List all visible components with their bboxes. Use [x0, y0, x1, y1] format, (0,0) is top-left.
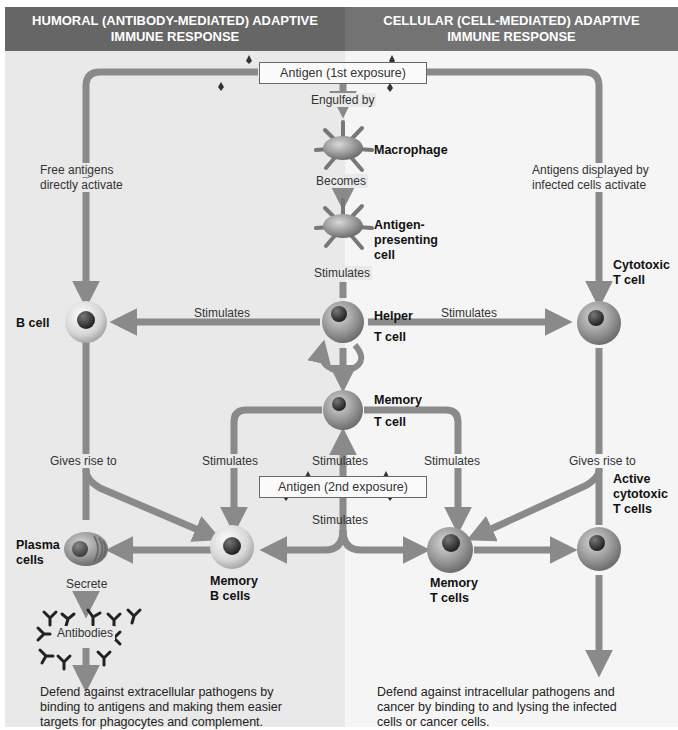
engulfed-by-label: Engulfed by — [309, 93, 376, 107]
b-cell-icon — [65, 301, 107, 343]
memory-ts-label-line2: T cells — [430, 591, 469, 606]
memory-t-cell-icon — [323, 390, 363, 430]
memory-t-label-line1: Memory — [374, 393, 422, 408]
cellular-outcome-line2: cancer by binding to and lysing the infe… — [377, 700, 617, 715]
stimulates-memory-ts-label: Stimulates — [422, 454, 482, 468]
stimulates-to-b-label: Stimulates — [194, 306, 250, 320]
apc-label-line2: presenting — [374, 233, 438, 248]
macrophage-label: Macrophage — [374, 143, 448, 158]
plasma-cell-icon — [64, 532, 108, 566]
stimulates-below-antigen2-label: Stimulates — [312, 513, 368, 527]
humoral-outcome-line1: Defend against extracellular pathogens b… — [40, 685, 282, 700]
helper-t-label-line1: Helper — [374, 309, 413, 324]
antigens-displayed-label-line2: infected cells activate — [530, 178, 648, 192]
humoral-outcome-line3: targets for phagocytes and complement. — [40, 715, 282, 730]
gives-rise-left-label: Gives rise to — [48, 454, 119, 468]
antigen-first-exposure-box: Antigen (1st exposure) — [259, 62, 427, 84]
plasma-label-line2: cells — [16, 553, 44, 568]
humoral-outcome-text: Defend against extracellular pathogens b… — [40, 685, 282, 730]
secrete-label: Secrete — [64, 577, 109, 591]
macrophage-icon — [316, 122, 372, 170]
active-cytotoxic-label-line2: cytotoxic — [613, 487, 668, 502]
humoral-outcome-line2: binding to antigens and making them easi… — [40, 700, 282, 715]
plasma-label-line1: Plasma — [16, 538, 60, 553]
apc-label-line1: Antigen- — [374, 218, 425, 233]
stimulates-memory-b-label: Stimulates — [200, 454, 260, 468]
cytotoxic-t-label-line1: Cytotoxic — [613, 258, 670, 273]
antigens-displayed-label-line1: Antigens displayed by — [530, 163, 651, 177]
memory-b-cell-icon — [210, 525, 254, 569]
active-cytotoxic-label-line3: T cells — [613, 502, 652, 517]
helper-t-label-line2: T cell — [374, 330, 406, 345]
stimulates-memory-t-up-label: Stimulates — [312, 454, 368, 468]
antigen-second-exposure-box: Antigen (2nd exposure) — [259, 476, 427, 498]
memory-t-cells-icon — [427, 527, 473, 573]
active-cytotoxic-label-line1: Active — [613, 472, 651, 487]
cellular-outcome-text: Defend against intracellular pathogens a… — [377, 685, 617, 730]
apc-label-line3: cell — [374, 248, 395, 263]
free-antigens-label-line1: Free antigens — [38, 163, 115, 177]
cellular-outcome-line3: cells or cancer cells. — [377, 715, 617, 730]
cytotoxic-t-cell-icon — [577, 301, 621, 345]
antibodies-label: Antibodies — [55, 626, 115, 640]
memory-t-label-line2: T cell — [374, 415, 406, 430]
stimulates-to-cytotoxic-label: Stimulates — [441, 306, 497, 320]
gives-rise-right-label: Gives rise to — [567, 454, 638, 468]
flow-arrows — [0, 0, 678, 730]
cytotoxic-t-label-line2: T cell — [613, 273, 645, 288]
antigen-presenting-cell-icon — [316, 200, 372, 248]
stimulates-apc-label: Stimulates — [312, 266, 372, 280]
free-antigens-label-line2: directly activate — [38, 178, 125, 192]
memory-b-label-line2: B cells — [210, 589, 250, 604]
memory-ts-label-line1: Memory — [430, 576, 478, 591]
active-cytotoxic-t-cell-icon — [577, 527, 621, 571]
memory-b-label-line1: Memory — [210, 574, 258, 589]
becomes-label: Becomes — [314, 174, 368, 188]
helper-t-cell-icon — [322, 301, 364, 343]
cellular-outcome-line1: Defend against intracellular pathogens a… — [377, 685, 617, 700]
b-cell-label: B cell — [16, 316, 49, 331]
